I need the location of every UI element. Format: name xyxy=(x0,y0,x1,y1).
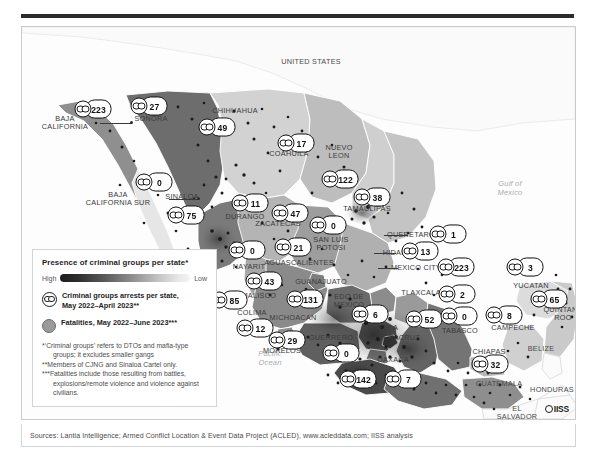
handcuffs-icon xyxy=(229,242,246,259)
handcuffs-icon xyxy=(310,217,327,234)
legend: Presence of criminal groups per state* H… xyxy=(32,249,217,407)
handcuffs-icon xyxy=(269,332,286,349)
footnote-1: *‘Criminal groups’ refers to DTOs and ma… xyxy=(42,341,207,359)
fatality-dot-icon xyxy=(42,319,56,333)
handcuffs-icon xyxy=(354,189,371,206)
marker-morelos[interactable]: 29 xyxy=(269,331,306,350)
marker-guanajuato[interactable]: 131 xyxy=(287,290,324,309)
iiss-logo-text: IISS xyxy=(554,404,569,414)
ramp-gradient xyxy=(60,274,190,282)
handcuffs-icon xyxy=(507,259,524,276)
marker-quintana-roo[interactable]: 65 xyxy=(531,290,568,309)
marker-zacatecas[interactable]: 47 xyxy=(272,204,309,223)
marker-sinaloa[interactable]: 75 xyxy=(168,206,205,225)
marker-veracruz[interactable]: 52 xyxy=(406,310,443,329)
handcuffs-icon xyxy=(42,292,57,307)
handcuffs-icon xyxy=(441,308,458,325)
sources-text: Sources: Lantia Intelligence; Armed Conf… xyxy=(22,432,413,439)
marker-mexico-city[interactable]: 223 xyxy=(438,258,475,277)
sources-bar: Sources: Lantia Intelligence; Armed Conf… xyxy=(21,424,576,447)
marker-baja-california[interactable]: 223 xyxy=(75,100,112,119)
marker-hidalgo[interactable]: 13 xyxy=(402,242,439,261)
marker-nayarit[interactable]: 0 xyxy=(229,241,266,260)
ocean-label: Gulf of Mexico xyxy=(484,179,536,197)
marker-chiapas[interactable]: 32 xyxy=(472,355,509,374)
handcuffs-icon xyxy=(438,259,455,276)
handcuffs-icon xyxy=(472,356,489,373)
map-frame: Gulf of Mexico Pacific Ocean UNITED STAT… xyxy=(21,26,576,420)
marker-aguascalientes[interactable]: 43 xyxy=(246,272,283,291)
handcuffs-icon xyxy=(237,320,254,337)
marker-guerrero[interactable]: 0 xyxy=(323,344,360,363)
handcuffs-icon xyxy=(439,286,456,303)
marker-tamaulipas[interactable]: 38 xyxy=(354,188,391,207)
legend-entry-fatalities: Fatalities, May 2022–June 2023*** xyxy=(42,318,207,333)
ocean-label: Pacific Ocean xyxy=(244,349,296,367)
footnote-3: ***Fatalities include those resulting fr… xyxy=(42,369,207,397)
handcuffs-icon xyxy=(287,291,304,308)
leader-dot-baja-california-sur xyxy=(197,197,200,200)
handcuffs-icon xyxy=(246,273,263,290)
handcuffs-icon xyxy=(531,291,548,308)
marker-sonora[interactable]: 27 xyxy=(131,97,168,116)
handcuffs-icon xyxy=(168,207,185,224)
leader-dot-baja-california xyxy=(130,121,133,124)
marker-campeche[interactable]: 8 xyxy=(486,306,523,325)
leader-baja-california-sur xyxy=(169,199,199,200)
figure-root: Gulf of Mexico Pacific Ocean UNITED STAT… xyxy=(0,0,595,465)
iiss-mark-icon xyxy=(545,405,553,413)
handcuffs-icon xyxy=(486,307,503,324)
marker-durango[interactable]: 11 xyxy=(232,194,269,213)
leader-hidalgo xyxy=(374,253,396,254)
handcuffs-icon xyxy=(278,135,295,152)
marker-puebla[interactable]: 6 xyxy=(352,305,389,324)
footnote-2: **Members of CJNG and Sinaloa Cartel onl… xyxy=(42,360,207,369)
legend-footnotes: *‘Criminal groups’ refers to DTOs and ma… xyxy=(42,341,207,397)
marker-tlaxcala[interactable]: 2 xyxy=(439,285,476,304)
leader-baja-california xyxy=(100,123,132,124)
legend-fatalities-label: Fatalities, May 2022–June 2023*** xyxy=(61,318,177,328)
iiss-logo: IISS xyxy=(545,404,569,414)
handcuffs-icon xyxy=(406,311,423,328)
marker-oaxaca[interactable]: 7 xyxy=(385,370,422,389)
handcuffs-icon xyxy=(340,371,357,388)
handcuffs-icon xyxy=(352,306,369,323)
marker-chihuahua[interactable]: 49 xyxy=(199,118,236,137)
handcuffs-icon xyxy=(75,101,92,118)
marker-san-luis-potosi[interactable]: 0 xyxy=(310,216,347,235)
top-rule xyxy=(21,14,574,18)
legend-arrests-label: Criminal groups arrests per state, May 2… xyxy=(62,291,179,310)
handcuffs-icon xyxy=(385,371,402,388)
handcuffs-icon xyxy=(272,205,289,222)
handcuffs-icon xyxy=(275,239,292,256)
handcuffs-icon xyxy=(323,345,340,362)
handcuffs-icon xyxy=(232,195,249,212)
handcuffs-icon xyxy=(199,119,216,136)
handcuffs-icon xyxy=(136,174,153,191)
ramp-high-label: High xyxy=(42,275,56,282)
legend-color-ramp: High Low xyxy=(42,274,207,282)
handcuffs-icon xyxy=(430,226,447,243)
marker-tabasco[interactable]: 0 xyxy=(441,307,478,326)
handcuffs-icon xyxy=(322,171,339,188)
ramp-low-label: Low xyxy=(194,275,207,282)
marker-yucatan[interactable]: 3 xyxy=(507,258,544,277)
marker-slp-second[interactable]: 21 xyxy=(275,238,312,257)
legend-title: Presence of criminal groups per state* xyxy=(42,258,207,267)
handcuffs-icon xyxy=(402,243,419,260)
marker-oaxaca-south[interactable]: 142 xyxy=(340,370,377,389)
marker-coahuila[interactable]: 17 xyxy=(278,134,315,153)
leader-queretaro xyxy=(384,235,408,236)
leader-mexico-city xyxy=(378,268,398,269)
handcuffs-icon xyxy=(131,98,148,115)
marker-nuevo-leon[interactable]: 122 xyxy=(322,170,359,189)
legend-entry-arrests: Criminal groups arrests per state, May 2… xyxy=(42,291,207,310)
marker-baja-california-sur[interactable]: 0 xyxy=(136,173,173,192)
